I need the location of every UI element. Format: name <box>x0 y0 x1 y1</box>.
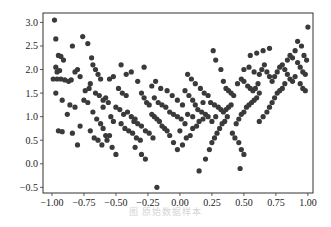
data-point <box>280 62 285 67</box>
data-point <box>139 152 144 157</box>
data-point <box>261 114 266 119</box>
data-point <box>175 98 180 103</box>
data-point <box>101 105 106 110</box>
data-point <box>267 74 272 79</box>
data-point <box>97 93 102 98</box>
data-point <box>267 105 272 110</box>
data-point <box>234 121 239 126</box>
y-tick-label: 0.0 <box>26 158 39 169</box>
y-tick-label: 2.0 <box>26 64 39 75</box>
data-point <box>177 128 182 133</box>
data-point <box>217 126 222 131</box>
data-point <box>75 67 80 72</box>
data-point <box>113 152 118 157</box>
data-point <box>165 88 170 93</box>
y-tick-label: −0.5 <box>20 182 38 193</box>
data-point <box>116 86 121 91</box>
data-point <box>80 34 85 39</box>
data-point <box>88 128 93 133</box>
y-tick-label: 0.5 <box>26 135 39 146</box>
data-point <box>147 131 152 136</box>
data-point <box>206 114 211 119</box>
data-point <box>264 69 269 74</box>
y-tick-label: 1.0 <box>26 111 39 122</box>
data-point <box>185 72 190 77</box>
data-point <box>165 128 170 133</box>
data-point <box>90 109 95 114</box>
data-point <box>270 100 275 105</box>
data-point <box>153 79 158 84</box>
data-point <box>221 79 226 84</box>
data-point <box>303 88 308 93</box>
data-point <box>124 72 129 77</box>
data-point <box>150 135 155 140</box>
data-point <box>130 131 135 136</box>
data-point <box>236 116 241 121</box>
data-point <box>99 142 104 147</box>
data-point <box>52 18 57 23</box>
data-point <box>185 112 190 117</box>
data-point <box>212 135 217 140</box>
data-point <box>254 51 259 56</box>
data-point <box>119 62 124 67</box>
data-point <box>98 76 103 81</box>
data-point <box>213 114 218 119</box>
data-point <box>259 67 264 72</box>
data-point <box>167 133 172 138</box>
data-point <box>230 131 235 136</box>
data-point <box>272 95 277 100</box>
data-point <box>139 91 144 96</box>
data-point <box>69 77 74 82</box>
data-point <box>98 121 103 126</box>
data-point <box>78 124 83 129</box>
data-point <box>298 81 303 86</box>
data-point <box>87 86 92 91</box>
data-point <box>67 102 72 107</box>
data-point <box>142 95 147 100</box>
data-point <box>106 100 111 105</box>
data-point <box>170 93 175 98</box>
data-point <box>203 157 208 162</box>
data-point <box>138 138 143 143</box>
data-point <box>241 67 246 72</box>
data-point <box>75 142 80 147</box>
data-point <box>239 147 244 152</box>
data-point <box>180 102 185 107</box>
data-point <box>197 168 202 173</box>
data-point <box>107 133 112 138</box>
data-point <box>254 95 259 100</box>
data-point <box>104 138 109 143</box>
data-point <box>139 124 144 129</box>
data-point <box>70 131 75 136</box>
data-point <box>229 102 234 107</box>
data-point <box>61 58 66 63</box>
data-point <box>200 116 205 121</box>
data-point <box>103 95 108 100</box>
data-point <box>272 74 277 79</box>
data-point <box>282 67 287 72</box>
data-point <box>214 131 219 136</box>
data-point <box>190 98 195 103</box>
data-point <box>110 145 115 150</box>
data-point <box>143 157 148 162</box>
data-point <box>232 135 237 140</box>
data-point <box>282 81 287 86</box>
data-point <box>295 60 300 65</box>
data-point <box>111 74 116 79</box>
data-point <box>206 93 211 98</box>
data-point <box>264 109 269 114</box>
data-point <box>218 67 223 72</box>
data-point <box>293 74 298 79</box>
data-point <box>119 121 124 126</box>
data-point <box>117 107 122 112</box>
data-point <box>186 93 191 98</box>
data-point <box>142 65 147 70</box>
data-point <box>124 93 129 98</box>
data-point <box>94 116 99 121</box>
data-point <box>95 72 100 77</box>
data-point <box>285 72 290 77</box>
data-point <box>108 114 113 119</box>
data-point <box>270 79 275 84</box>
data-point <box>154 185 159 190</box>
data-point <box>246 65 251 70</box>
